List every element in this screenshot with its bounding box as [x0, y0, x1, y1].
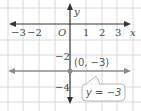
y-tick-label: −4 — [55, 82, 70, 93]
equation-callout: y = −3 — [82, 76, 125, 101]
arrow-down-icon — [67, 97, 73, 104]
x-tick-label: −2 — [27, 27, 42, 38]
x-tick-label: 3 — [115, 27, 121, 38]
x-axis-label: x — [130, 27, 136, 38]
y-tick-label: −2 — [55, 51, 70, 62]
equation-label: y = −3 — [85, 87, 121, 98]
coordinate-plane: y x O −3 −2 1 2 3 −2 −4 (0, −3) y = −3 — [0, 0, 141, 111]
x-tick-label: −3 — [11, 27, 26, 38]
arrow-right-icon — [124, 68, 131, 74]
point-marker — [68, 69, 73, 74]
arrow-up-icon — [67, 3, 73, 10]
y-axis-label: y — [73, 6, 80, 17]
arrow-left-icon — [8, 68, 15, 74]
x-tick-label: 2 — [99, 27, 105, 38]
point-label: (0, −3) — [74, 57, 109, 68]
origin-label: O — [58, 27, 66, 38]
x-tick-label: 1 — [83, 27, 89, 38]
